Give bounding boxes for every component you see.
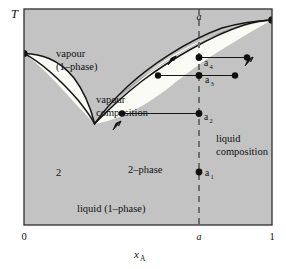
label-vapour-line2: (1–phase) — [56, 61, 98, 73]
point-label-a1-sub: 1 — [211, 173, 214, 180]
label-liquid-composition-line2: composition — [216, 146, 269, 157]
label-vapour-composition-line1: vapour — [96, 94, 126, 105]
x-axis-label-sub: A — [140, 254, 146, 263]
point-a3-marker — [196, 72, 203, 79]
point-label-a3-sub: 3 — [211, 80, 214, 87]
label-two-phase: 2–phase — [128, 164, 163, 175]
x-tick-label-a: a — [197, 231, 202, 242]
tie-line-a3-liquid-endpoint — [232, 72, 238, 78]
label-vapour-composition-line2: composition — [96, 107, 149, 118]
x-axis-label-main: x — [133, 248, 139, 260]
label-vapour-line1: vapour — [56, 48, 86, 59]
label-liquid-composition-line1: liquid — [216, 133, 241, 144]
point-a4-marker — [196, 54, 203, 61]
label-two-phase-small: 2 — [56, 167, 61, 178]
point-label-a2-sub: 2 — [210, 117, 213, 124]
phase-diagram-svg: T a vapour (1–phase) vapour composition … — [0, 0, 286, 269]
y-axis-label: T — [11, 7, 19, 21]
label-liquid-one-phase: liquid (1–phase) — [77, 203, 146, 215]
phase-diagram-figure: T a vapour (1–phase) vapour composition … — [0, 0, 286, 269]
point-a2-marker — [196, 110, 203, 117]
point-a1-marker — [196, 169, 203, 176]
x-tick-label-0: 0 — [21, 231, 26, 242]
tie-line-a3-vapour-endpoint — [155, 72, 161, 78]
top-tick-label-a: a — [197, 11, 202, 22]
x-tick-label-1: 1 — [269, 231, 274, 242]
